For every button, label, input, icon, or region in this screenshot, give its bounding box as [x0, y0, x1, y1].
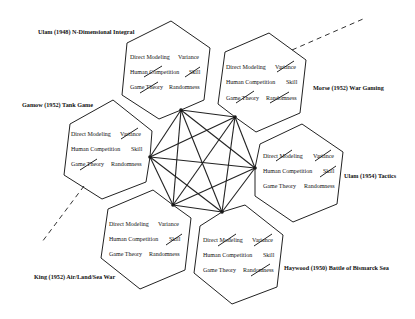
hexagon-title: Ulam (1954) Tactics	[344, 172, 397, 180]
hexagon-ulam-1954: Ulam (1954) Tactics Direct Modeling Vari…	[255, 124, 397, 222]
attr-direct-modeling: Direct Modeling	[203, 237, 243, 243]
hexagon-morse-1952: Morse (1952) War Gaming Direct Modeling …	[218, 33, 385, 132]
attr-variance: Variance	[313, 153, 334, 159]
attr-variance: Variance	[120, 131, 141, 137]
attr-randomness: Randomness	[149, 251, 180, 257]
dashed-extension-upper-right	[292, 19, 363, 50]
attr-direct-modeling: Direct Modeling	[130, 54, 170, 60]
attr-game-theory: Game Theory	[109, 251, 142, 257]
hexagon-title: Ulam (1948) N-Dimensional Integral	[38, 28, 135, 36]
hexagon-title: Haywood (1950) Battle of Bismarck Sea	[284, 264, 389, 272]
hexagon-king-1952: King (1952) Air/Land/Sea War Direct Mode…	[34, 190, 191, 289]
attr-randomness: Randomness	[111, 161, 142, 167]
attr-human-competition: Human Competition	[109, 236, 158, 242]
attr-game-theory: Game Theory	[263, 183, 296, 189]
attr-randomness: Randomness	[304, 183, 335, 189]
attr-variance: Variance	[275, 64, 296, 70]
game-taxonomy-diagram: Ulam (1948) N-Dimensional Integral Direc…	[0, 0, 415, 319]
attr-human-competition: Human Competition	[71, 146, 120, 152]
attr-skill: Skill	[263, 252, 275, 258]
attr-direct-modeling: Direct Modeling	[109, 221, 149, 227]
attr-game-theory: Game Theory	[226, 95, 259, 101]
attr-randomness: Randomness	[169, 84, 200, 90]
attr-direct-modeling: Direct Modeling	[226, 64, 266, 70]
attr-randomness: Randomness	[243, 267, 274, 273]
hexagon-title: King (1952) Air/Land/Sea War	[34, 273, 115, 281]
attr-human-competition: Human Competition	[203, 252, 252, 258]
attr-human-competition: Human Competition	[226, 79, 275, 85]
attr-skill: Skill	[131, 146, 143, 152]
attr-game-theory: Game Theory	[203, 267, 236, 273]
attr-variance: Variance	[178, 54, 199, 60]
hexagon-title: Morse (1952) War Gaming	[313, 84, 385, 92]
attr-game-theory: Game Theory	[71, 161, 104, 167]
attr-variance: Variance	[158, 221, 179, 227]
attr-direct-modeling: Direct Modeling	[71, 131, 111, 137]
dashed-extension-lower-left	[42, 186, 84, 242]
attr-human-competition: Human Competition	[263, 168, 312, 174]
attr-human-competition: Human Competition	[130, 69, 179, 75]
central-complete-graph	[148, 108, 257, 214]
attr-skill: Skill	[286, 79, 298, 85]
hexagon-gamow-1952: Gamow (1952) Tank Game Direct Modeling V…	[22, 100, 152, 199]
hexagon-title: Gamow (1952) Tank Game	[22, 101, 93, 109]
hexagon-haywood-1950: Haywood (1950) Battle of Bismarck Sea Di…	[194, 205, 389, 304]
